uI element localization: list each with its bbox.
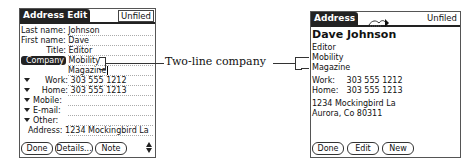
- work-phone-row: Work: 303 555 1212: [312, 76, 403, 85]
- done-button[interactable]: Done: [312, 142, 344, 155]
- category-label[interactable]: Unfiled: [425, 13, 459, 23]
- mobile-input[interactable]: [68, 105, 153, 106]
- work-input[interactable]: 303 555 1212: [71, 76, 127, 85]
- address-line-2: Aurora, Co 80311: [312, 109, 382, 118]
- mobile-field: Mobile:: [24, 96, 62, 105]
- callout-line-right: [273, 63, 295, 64]
- dropdown-arrow-icon[interactable]: [24, 118, 30, 122]
- first-name-field: First name: Dave: [21, 36, 89, 45]
- edit-button[interactable]: Edit: [347, 142, 379, 155]
- contact-name: Dave Johnson: [312, 29, 396, 41]
- work-field: Work: 303 555 1212: [24, 76, 127, 85]
- home-input[interactable]: 303 555 1213: [71, 86, 127, 95]
- address-input[interactable]: 1234 Mockingbird La: [65, 126, 149, 135]
- title-field: Title: Editor: [21, 46, 92, 55]
- title-bar: Address Unfiled: [311, 12, 460, 27]
- company-label: Company: [21, 56, 66, 65]
- text-cursor: [107, 66, 111, 75]
- first-name-input[interactable]: Dave: [68, 36, 89, 45]
- contact-title: Editor: [312, 43, 336, 52]
- scroll-arrows-icon[interactable]: [146, 142, 153, 154]
- address-view-screen: Address Unfiled Dave Johnson Editor Mobi…: [310, 11, 461, 158]
- title-bar: Address Edit Unfiled: [20, 9, 155, 24]
- beam-icon[interactable]: [368, 13, 390, 23]
- details-button[interactable]: Details...: [55, 142, 93, 155]
- address-field: Address: 1234 Mockingbird La: [28, 126, 149, 135]
- callout-label: Two-line company: [165, 55, 266, 68]
- company-line-2: Magazine: [312, 63, 350, 72]
- company-line-1: Mobility: [312, 53, 343, 62]
- other-field: Other:: [24, 116, 58, 125]
- home-phone: 303 555 1213: [347, 86, 403, 95]
- callout-tick-top: [301, 57, 309, 58]
- new-button[interactable]: New: [382, 142, 414, 155]
- last-name-field: Last name: Johnson: [21, 26, 100, 35]
- dropdown-arrow-icon[interactable]: [24, 108, 30, 112]
- title-input[interactable]: Editor: [69, 46, 93, 55]
- company-input[interactable]: Mobility: [69, 56, 100, 65]
- company-field: Company Mobility: [21, 56, 100, 65]
- category-picker[interactable]: Unfiled: [118, 10, 154, 22]
- dropdown-arrow-icon[interactable]: [24, 98, 30, 102]
- screen-title: Address: [311, 12, 358, 25]
- address-line-1: 1234 Mockingbird La: [312, 99, 396, 108]
- last-name-input[interactable]: Johnson: [68, 26, 100, 35]
- email-input[interactable]: [68, 115, 153, 116]
- done-button[interactable]: Done: [21, 142, 53, 155]
- home-phone-row: Home: 303 555 1213: [312, 86, 403, 95]
- screen-title: Address Edit: [20, 9, 90, 22]
- callout-line-left: [106, 63, 164, 64]
- email-field: E-mail:: [24, 106, 61, 115]
- work-phone: 303 555 1212: [347, 76, 403, 85]
- callout-tick-bottom: [301, 68, 309, 69]
- home-field: Home: 303 555 1213: [24, 86, 127, 95]
- dropdown-arrow-icon[interactable]: [24, 78, 30, 82]
- note-button[interactable]: Note: [95, 142, 127, 155]
- callout-bracket-left: [99, 57, 106, 70]
- address-edit-screen: Address Edit Unfiled Last name: Johnson …: [19, 8, 156, 158]
- dropdown-arrow-icon[interactable]: [24, 88, 30, 92]
